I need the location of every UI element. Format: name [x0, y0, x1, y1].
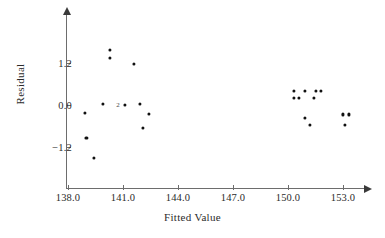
y-axis-arrow-icon — [63, 7, 71, 15]
data-point — [92, 157, 95, 160]
data-point — [109, 48, 112, 51]
data-point — [341, 113, 344, 116]
x-axis-tick — [68, 185, 69, 190]
data-point — [83, 111, 86, 114]
x-axis-tick — [343, 185, 344, 190]
data-point — [343, 124, 346, 127]
y-axis-tick-label: 0.0 — [58, 100, 72, 111]
x-axis-tick-label: 144.0 — [166, 192, 191, 203]
scatter-plot: 138.0141.0144.0147.0150.0153.0 1.20.0−1.… — [0, 0, 385, 238]
x-axis-arrow-icon — [364, 185, 372, 193]
x-axis-tick-label: 147.0 — [221, 192, 246, 203]
data-point — [292, 96, 295, 99]
data-point — [314, 89, 317, 92]
overlap-count-label: 2 — [116, 101, 120, 109]
x-axis-tick-label: 138.0 — [56, 192, 81, 203]
y-axis-tick-label: 1.2 — [58, 58, 72, 69]
x-axis-tick-label: 150.0 — [276, 192, 301, 203]
data-point — [109, 56, 112, 59]
data-point — [101, 103, 104, 106]
data-point — [85, 136, 88, 139]
y-axis-title: Residual — [14, 44, 26, 124]
data-point — [303, 89, 306, 92]
data-point — [303, 116, 306, 119]
data-point — [142, 126, 145, 129]
x-axis-tick-label: 141.0 — [111, 192, 136, 203]
x-axis-tick — [123, 185, 124, 190]
data-point — [123, 103, 126, 106]
y-axis-tick-label: −1.2 — [52, 142, 72, 153]
x-axis-line — [66, 188, 366, 189]
data-point — [138, 103, 141, 106]
x-axis-tick — [178, 185, 179, 190]
data-point — [292, 89, 295, 92]
data-point — [319, 89, 322, 92]
x-axis-title: Fitted Value — [0, 211, 385, 223]
x-axis-tick — [288, 185, 289, 190]
data-point — [132, 62, 135, 65]
data-point — [147, 112, 150, 115]
data-point — [347, 113, 350, 116]
x-axis-tick — [233, 185, 234, 190]
x-axis-tick-label: 153.0 — [331, 192, 356, 203]
data-point — [297, 96, 300, 99]
data-point — [312, 96, 315, 99]
data-point — [308, 124, 311, 127]
